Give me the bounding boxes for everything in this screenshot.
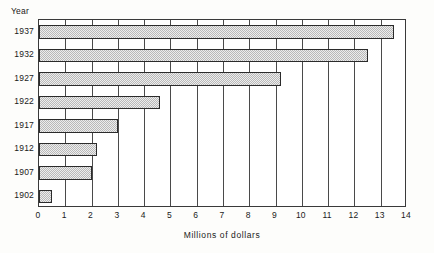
x-tick-label-14: 14 (394, 210, 418, 220)
bar-1902 (39, 190, 52, 204)
y-tick-label-1907: 1907 (0, 167, 34, 177)
bar-row (39, 72, 405, 86)
y-tick-label-1932: 1932 (0, 49, 34, 59)
x-tick-label-9: 9 (263, 210, 287, 220)
bar-1912 (39, 143, 97, 157)
bar-row (39, 119, 405, 133)
y-tick-label-1912: 1912 (0, 143, 34, 153)
bar-row (39, 96, 405, 110)
y-tick-label-1902: 1902 (0, 190, 34, 200)
x-tick-label-6: 6 (184, 210, 208, 220)
x-tick-label-13: 13 (368, 210, 392, 220)
bar-1907 (39, 166, 92, 180)
bar-1932 (39, 49, 368, 63)
x-tick-label-3: 3 (105, 210, 129, 220)
bar-row (39, 49, 405, 63)
x-tick-label-5: 5 (157, 210, 181, 220)
x-tick-label-1: 1 (52, 210, 76, 220)
bar-1922 (39, 96, 160, 110)
x-tick-label-7: 7 (210, 210, 234, 220)
y-tick-label-1937: 1937 (0, 26, 34, 36)
x-tick-label-8: 8 (236, 210, 260, 220)
y-tick-label-1927: 1927 (0, 73, 34, 83)
plot-area (38, 19, 406, 207)
x-tick-label-2: 2 (79, 210, 103, 220)
x-tick-label-10: 10 (289, 210, 313, 220)
x-axis-tick-labels: 01234567891011121314 (38, 210, 406, 224)
bar-row (39, 25, 405, 39)
y-axis-title: Year (11, 6, 29, 16)
bar-1927 (39, 72, 281, 86)
x-tick-label-4: 4 (131, 210, 155, 220)
bar-1917 (39, 119, 118, 133)
x-tick-label-11: 11 (315, 210, 339, 220)
bar-1937 (39, 25, 394, 39)
x-tick-label-12: 12 (341, 210, 365, 220)
y-tick-label-1917: 1917 (0, 120, 34, 130)
x-axis-title: Millions of dollars (38, 230, 406, 240)
x-tick-label-0: 0 (26, 210, 50, 220)
bar-chart: Year 19371932192719221917191219071902 01… (0, 0, 434, 253)
y-tick-label-1922: 1922 (0, 96, 34, 106)
y-axis-tick-labels: 19371932192719221917191219071902 (0, 19, 34, 207)
bar-row (39, 166, 405, 180)
bars-layer (39, 20, 405, 206)
bar-row (39, 143, 405, 157)
bar-row (39, 190, 405, 204)
